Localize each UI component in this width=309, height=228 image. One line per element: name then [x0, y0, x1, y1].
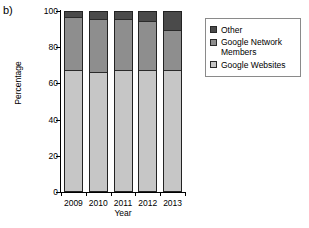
x-tick-mark: [135, 192, 136, 196]
legend-item-network: Google Network Members: [210, 37, 296, 57]
bar-segment-google-network-members: [115, 19, 132, 71]
legend-swatch-other-icon: [210, 26, 217, 33]
y-tick-label: 100: [44, 6, 58, 16]
x-tick-label-2012: 2012: [138, 198, 157, 208]
bar-segment-google-websites: [90, 73, 107, 191]
bar-segment-google-websites: [164, 71, 181, 191]
bar-segment-google-websites: [139, 71, 156, 191]
x-axis-ticks: 20092010201120122013: [60, 192, 186, 196]
y-tick-label: 80: [49, 42, 58, 52]
panel-label: b): [3, 5, 13, 16]
bar-segment-google-websites: [65, 71, 82, 191]
legend-label-other: Other: [221, 25, 242, 35]
bar-group: [61, 11, 185, 192]
x-tick-label-2010: 2010: [89, 198, 108, 208]
y-tick-label: 20: [49, 151, 58, 161]
bar-segment-other: [139, 12, 156, 21]
y-axis-title: Percentage: [13, 43, 23, 123]
legend-label-websites: Google Websites: [221, 60, 286, 70]
bar-segment-google-network-members: [139, 21, 156, 71]
x-tick-label-2011: 2011: [114, 198, 132, 208]
bar-2011[interactable]: [114, 11, 133, 192]
legend: Other Google Network Members Google Webs…: [205, 18, 301, 77]
y-tick-label: 40: [49, 115, 58, 125]
bar-segment-google-network-members: [65, 17, 82, 71]
bar-segment-google-websites: [115, 71, 132, 191]
x-tick-label-2009: 2009: [64, 198, 83, 208]
legend-item-websites: Google Websites: [210, 60, 296, 70]
chart-figure: b) Percentage 020406080100 2009201020112…: [0, 0, 309, 228]
bar-2009[interactable]: [64, 11, 83, 192]
x-tick-mark: [86, 192, 87, 196]
bar-2010[interactable]: [89, 11, 108, 192]
y-tick-label: 60: [49, 78, 58, 88]
legend-label-network: Google Network Members: [221, 37, 296, 57]
x-tick-label-2013: 2013: [163, 198, 182, 208]
legend-swatch-websites-icon: [210, 61, 217, 68]
x-tick-mark: [160, 192, 161, 196]
x-tick-mark: [185, 192, 186, 196]
bar-2013[interactable]: [163, 11, 182, 192]
bar-segment-google-network-members: [164, 30, 181, 71]
plot-area: 020406080100: [61, 11, 185, 192]
bar-segment-other: [164, 12, 181, 30]
legend-item-other: Other: [210, 25, 296, 35]
bar-segment-other: [90, 12, 107, 19]
x-tick-mark: [111, 192, 112, 196]
x-tick-mark: [61, 192, 62, 196]
bar-segment-other: [115, 12, 132, 19]
legend-swatch-network-icon: [210, 39, 217, 46]
bar-2012[interactable]: [138, 11, 157, 192]
bar-segment-google-network-members: [90, 19, 107, 73]
x-axis-title: Year: [60, 208, 186, 218]
y-tick-label: 0: [53, 187, 58, 197]
